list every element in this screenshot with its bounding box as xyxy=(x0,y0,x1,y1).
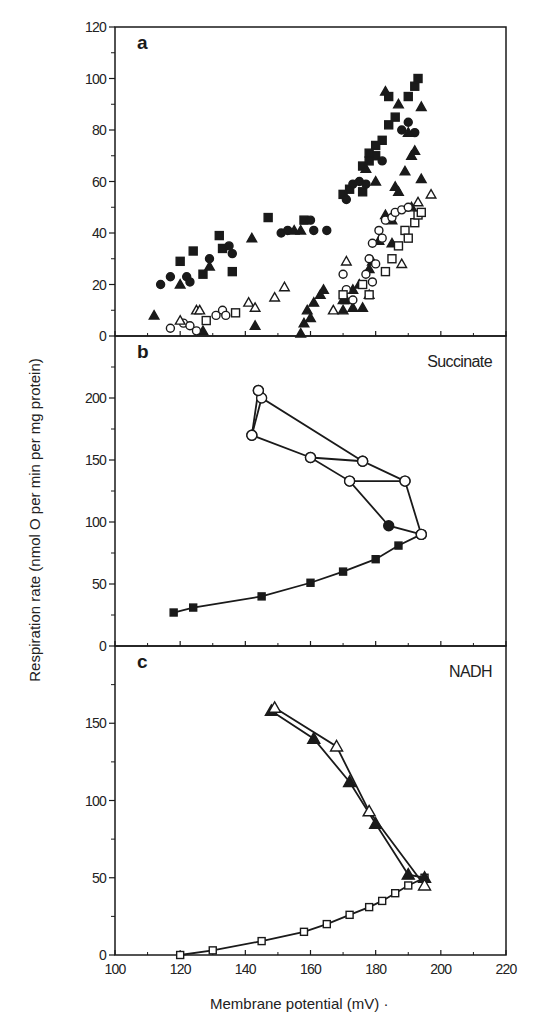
square-marker xyxy=(372,141,380,149)
square-marker xyxy=(388,255,396,263)
circle-marker xyxy=(375,226,383,234)
circle-marker xyxy=(345,476,355,486)
y-tick-label: 100 xyxy=(85,514,107,530)
panel-label-b: b xyxy=(137,341,149,362)
circle-marker xyxy=(384,521,394,531)
circle-marker xyxy=(349,296,357,304)
square-marker xyxy=(366,904,373,911)
figure: 020406080100120a050100150200bSuccinate05… xyxy=(0,0,542,1031)
circle-marker xyxy=(166,324,174,332)
square-marker xyxy=(199,270,207,278)
square-marker xyxy=(202,317,210,325)
y-tick-label: 100 xyxy=(85,71,107,87)
circle-marker xyxy=(368,239,376,247)
x-tick-label: 100 xyxy=(105,961,127,977)
square-marker xyxy=(404,93,412,101)
square-marker xyxy=(411,219,419,227)
circle-marker xyxy=(225,242,233,250)
x-tick-label: 140 xyxy=(235,961,257,977)
square-marker xyxy=(258,938,265,945)
square-marker xyxy=(359,281,367,289)
triangle-marker xyxy=(149,311,159,319)
x-tick-label: 200 xyxy=(430,961,452,977)
panel-frame-c xyxy=(115,646,506,955)
square-marker xyxy=(228,268,236,276)
y-tick-label: 80 xyxy=(92,122,107,138)
square-marker xyxy=(300,928,307,935)
panel-frame-a xyxy=(115,27,506,336)
square-marker xyxy=(372,556,379,563)
square-marker xyxy=(339,291,347,299)
square-marker xyxy=(232,309,240,317)
y-tick-label: 100 xyxy=(85,793,107,809)
triangle-marker xyxy=(244,298,254,306)
triangle-marker xyxy=(331,740,343,751)
panel-label-c: c xyxy=(137,651,148,672)
series-line xyxy=(252,391,421,535)
triangle-marker xyxy=(381,87,391,95)
x-tick-label: 180 xyxy=(365,961,387,977)
square-marker xyxy=(379,897,386,904)
triangle-marker xyxy=(329,305,339,313)
y-axis-label: Respiration rate (nmol O per min per mg … xyxy=(26,358,43,681)
triangle-marker xyxy=(342,257,352,265)
square-marker xyxy=(401,226,409,234)
square-marker xyxy=(417,208,425,216)
series-line xyxy=(275,708,425,886)
square-marker xyxy=(392,890,399,897)
circle-marker xyxy=(362,270,370,278)
square-marker xyxy=(395,542,402,549)
circle-marker xyxy=(342,196,350,204)
circle-marker xyxy=(404,203,412,211)
chart-svg: 020406080100120a050100150200bSuccinate05… xyxy=(0,0,542,1031)
square-marker xyxy=(170,609,177,616)
x-tick-label: 120 xyxy=(170,961,192,977)
square-marker xyxy=(404,234,412,242)
triangle-marker xyxy=(338,305,348,313)
square-marker xyxy=(340,568,347,575)
series-line xyxy=(271,711,424,878)
circle-marker xyxy=(192,327,200,335)
x-tick-label: 220 xyxy=(496,961,518,977)
series-line xyxy=(174,534,422,612)
y-tick-label: 200 xyxy=(85,390,107,406)
triangle-marker xyxy=(175,280,185,288)
circle-marker xyxy=(358,456,368,466)
panel-frame-b xyxy=(115,336,506,646)
series-line xyxy=(180,878,424,955)
panel-title-b: Succinate xyxy=(427,353,493,370)
y-tick-label: 120 xyxy=(85,19,107,35)
x-axis-label: Membrane potential (mV) · xyxy=(210,995,388,1012)
square-marker xyxy=(385,121,393,129)
circle-marker xyxy=(368,278,376,286)
triangle-marker xyxy=(270,293,280,301)
triangle-marker xyxy=(250,321,260,329)
circle-marker xyxy=(378,234,386,242)
square-marker xyxy=(359,188,367,196)
square-marker xyxy=(391,113,399,121)
circle-marker xyxy=(323,226,331,234)
triangle-marker xyxy=(400,166,410,174)
square-marker xyxy=(176,257,184,265)
y-tick-label: 50 xyxy=(92,576,107,592)
circle-marker xyxy=(400,476,410,486)
square-marker xyxy=(209,947,216,954)
square-marker xyxy=(365,291,373,299)
square-marker xyxy=(258,593,265,600)
square-marker xyxy=(381,268,389,276)
y-tick-label: 20 xyxy=(92,277,107,293)
triangle-marker xyxy=(416,174,426,182)
triangle-marker xyxy=(371,177,381,185)
circle-marker xyxy=(362,180,370,188)
circle-marker xyxy=(378,157,386,165)
triangle-marker xyxy=(397,259,407,267)
triangle-marker xyxy=(370,818,382,829)
y-tick-label: 150 xyxy=(85,452,107,468)
y-tick-label: 0 xyxy=(99,328,107,344)
y-tick-label: 0 xyxy=(99,638,107,654)
circle-marker xyxy=(228,250,236,258)
square-marker xyxy=(394,242,402,250)
square-marker xyxy=(264,214,272,222)
triangle-marker xyxy=(413,197,423,205)
triangle-marker xyxy=(426,190,436,198)
